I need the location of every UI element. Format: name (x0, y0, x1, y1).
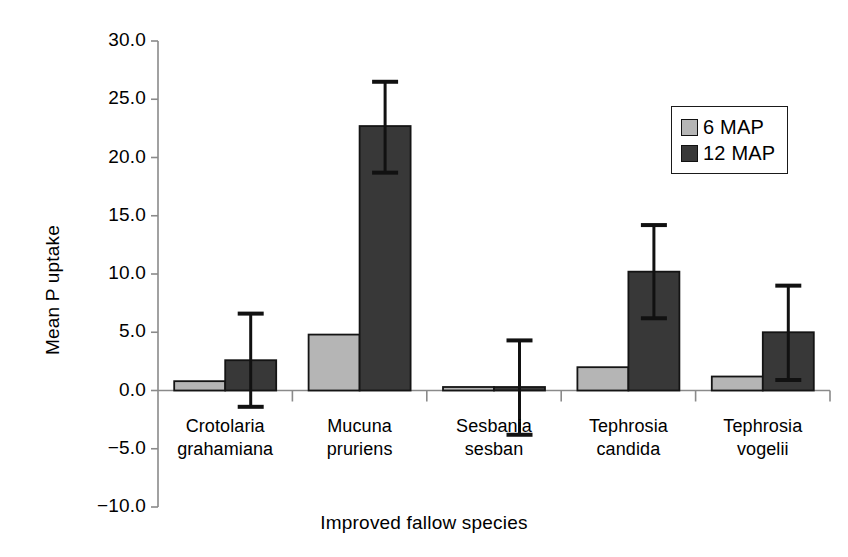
chart-legend: 6 MAP 12 MAP (671, 106, 788, 174)
x-axis-tick-label-line: vogelii (673, 438, 848, 461)
bar-6-map-1 (309, 335, 360, 391)
legend-label-12map: 12 MAP (703, 142, 775, 165)
x-axis-tick-label: Tephrosiavogelii (673, 415, 848, 461)
plot-area (0, 0, 848, 557)
bar-6-map-0 (174, 381, 225, 390)
bar-6-map-2 (443, 387, 494, 391)
legend-label-6map: 6 MAP (703, 116, 764, 139)
bar-chart: Mean P uptake 30.025.020.015.010.05.00.0… (0, 0, 848, 557)
legend-swatch-6map (681, 119, 698, 136)
legend-swatch-12map (681, 145, 698, 162)
legend-item-6map: 6 MAP (681, 114, 775, 140)
bar-6-map-3 (577, 367, 628, 390)
bar-6-map-4 (712, 377, 763, 391)
x-axis-title: Improved fallow species (0, 512, 848, 534)
legend-item-12map: 12 MAP (681, 140, 775, 166)
x-axis-tick-label-line: Tephrosia (673, 415, 848, 438)
